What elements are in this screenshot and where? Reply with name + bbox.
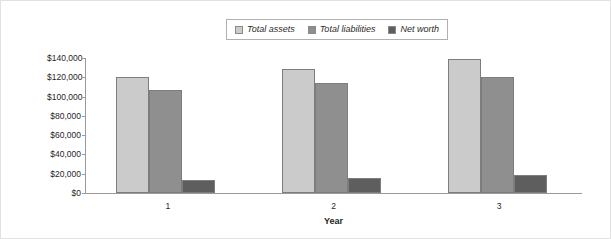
bar-assets bbox=[282, 69, 315, 193]
x-tick-label: 3 bbox=[497, 201, 502, 211]
x-tick-label: 2 bbox=[331, 201, 336, 211]
legend-item-total-liabilities: Total liabilities bbox=[308, 25, 376, 34]
bar-chart: Total assets Total liabilities Net worth… bbox=[0, 0, 611, 239]
bar-networth bbox=[514, 175, 547, 193]
bar-assets bbox=[448, 59, 481, 193]
legend-label-total-liabilities: Total liabilities bbox=[320, 25, 376, 34]
y-tick-label: $120,000 bbox=[47, 72, 81, 82]
y-tick-label: $80,000 bbox=[47, 111, 81, 121]
legend-label-net-worth: Net worth bbox=[400, 25, 439, 34]
bar-liabilities bbox=[481, 77, 514, 193]
y-tick-mark bbox=[82, 154, 85, 155]
bar-liabilities bbox=[315, 83, 348, 193]
y-tick-mark bbox=[82, 97, 85, 98]
y-tick-mark bbox=[82, 116, 85, 117]
y-tick-mark bbox=[82, 135, 85, 136]
y-tick-mark bbox=[82, 58, 85, 59]
y-tick-label: $0 bbox=[47, 188, 81, 198]
bar-group bbox=[448, 58, 551, 193]
y-tick-mark bbox=[82, 77, 85, 78]
bar-networth bbox=[348, 178, 381, 193]
bar-group bbox=[282, 58, 385, 193]
legend-swatch-total-liabilities bbox=[308, 26, 316, 34]
legend-swatch-net-worth bbox=[388, 26, 396, 34]
y-tick-label: $100,000 bbox=[47, 92, 81, 102]
y-tick-label: $20,000 bbox=[47, 169, 81, 179]
y-tick-mark bbox=[82, 193, 85, 194]
bar-assets bbox=[116, 77, 149, 193]
bar-liabilities bbox=[149, 90, 182, 193]
bar-networth bbox=[182, 180, 215, 193]
x-axis-line bbox=[85, 193, 582, 194]
y-tick-label: $140,000 bbox=[47, 53, 81, 63]
y-tick-mark bbox=[82, 174, 85, 175]
bar-group bbox=[116, 58, 219, 193]
y-tick-label: $60,000 bbox=[47, 130, 81, 140]
chart-legend: Total assets Total liabilities Net worth bbox=[226, 19, 448, 40]
legend-item-net-worth: Net worth bbox=[388, 25, 439, 34]
legend-item-total-assets: Total assets bbox=[235, 25, 295, 34]
x-tick-label: 1 bbox=[165, 201, 170, 211]
y-tick-label: $40,000 bbox=[47, 149, 81, 159]
x-axis-title: Year bbox=[85, 216, 582, 226]
y-axis-line bbox=[85, 58, 86, 193]
legend-swatch-total-assets bbox=[235, 26, 243, 34]
plot-area: $140,000$120,000$100,000$80,000$60,000$4… bbox=[85, 58, 582, 193]
legend-label-total-assets: Total assets bbox=[247, 25, 295, 34]
